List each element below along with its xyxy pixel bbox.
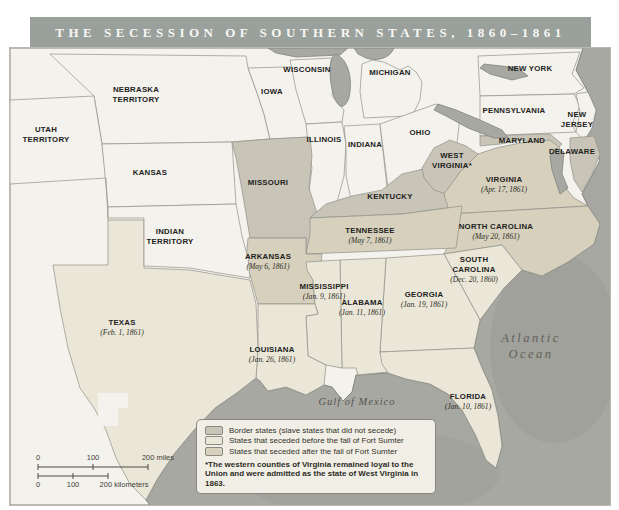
state-label-michigan: MICHIGAN bbox=[369, 68, 411, 77]
scale-km-label: 0 bbox=[36, 480, 40, 489]
state-label-south-carolina: SOUTH bbox=[460, 255, 489, 264]
state-label-nebraska-territory: NEBRASKA bbox=[113, 85, 159, 94]
legend-item-1: States that seceded before the fall of F… bbox=[205, 436, 427, 447]
legend-label-0: Border states (slave states that did not… bbox=[229, 426, 396, 435]
scale-miles-label: 100 bbox=[87, 453, 100, 462]
state-label-utah-territory: UTAH bbox=[35, 125, 57, 134]
water-label-atlantic-ocean: Ocean bbox=[508, 347, 553, 361]
state-date-louisiana: (Jan. 26, 1861) bbox=[249, 355, 296, 364]
state-label-missouri: MISSOURI bbox=[248, 178, 289, 187]
state-label-indiana: INDIANA bbox=[348, 140, 382, 149]
legend-footnote: *The western counties of Virginia remain… bbox=[205, 460, 427, 489]
state-label-new-york: NEW YORK bbox=[508, 64, 553, 73]
state-label-pennsylvania: PENNSYLVANIA bbox=[483, 106, 546, 115]
state-date-florida: (Jan. 10, 1861) bbox=[445, 402, 492, 411]
state-label-indian-territory: TERRITORY bbox=[147, 237, 194, 246]
legend-label-2: States that seceded after the fall of Fo… bbox=[229, 447, 397, 456]
legend-swatch-2 bbox=[205, 447, 223, 456]
state-label-west-virginia: VIRGINIA* bbox=[432, 161, 473, 170]
state-label-louisiana: LOUISIANA bbox=[249, 345, 294, 354]
scale-km-label: 100 bbox=[67, 480, 80, 489]
legend-swatch-0 bbox=[205, 426, 223, 435]
state-date-alabama: (Jan. 11, 1861) bbox=[339, 308, 385, 317]
scale-miles-label: 0 bbox=[36, 453, 40, 462]
state-label-alabama: ALABAMA bbox=[341, 298, 382, 307]
water-label-gulf-of-mexico: Gulf of Mexico bbox=[319, 396, 396, 407]
page: THE SECESSION OF SOUTHERN STATES, 1860–1… bbox=[0, 0, 619, 510]
state-label-north-carolina: NORTH CAROLINA bbox=[459, 222, 534, 231]
state-label-mississippi: MISSISSIPPI bbox=[299, 282, 348, 291]
state-date-tennessee: (May 7, 1861) bbox=[348, 236, 392, 245]
state-label-utah-territory: TERRITORY bbox=[23, 135, 70, 144]
state-date-arkansas: (May 6, 1861) bbox=[246, 262, 290, 271]
legend: Border states (slave states that did not… bbox=[196, 419, 436, 494]
state-label-indian-territory: INDIAN bbox=[156, 227, 184, 236]
scale-km-label: 200 kilometers bbox=[100, 480, 149, 489]
state-label-kentucky: KENTUCKY bbox=[367, 192, 413, 201]
state-label-arkansas: ARKANSAS bbox=[245, 252, 291, 261]
state-date-georgia: (Jan. 19, 1861) bbox=[401, 300, 448, 309]
water-label-atlantic-ocean: Atlantic bbox=[500, 331, 561, 345]
state-label-georgia: GEORGIA bbox=[405, 290, 444, 299]
state-label-virginia: VIRGINIA bbox=[486, 175, 523, 184]
state-label-texas: TEXAS bbox=[108, 318, 135, 327]
state-label-iowa: IOWA bbox=[261, 87, 283, 96]
legend-swatch-1 bbox=[205, 436, 223, 445]
state-label-wisconsin: WISCONSIN bbox=[283, 65, 330, 74]
state-label-illinois: ILLINOIS bbox=[307, 135, 342, 144]
state-date-south-carolina: (Dec. 20, 1860) bbox=[450, 275, 498, 284]
state-label-new-jersey: NEW bbox=[568, 110, 587, 119]
state-label-nebraska-territory: TERRITORY bbox=[113, 95, 160, 104]
state-label-tennessee: TENNESSEE bbox=[345, 226, 394, 235]
legend-item-2: States that seceded after the fall of Fo… bbox=[205, 446, 427, 457]
state-date-virginia: (Apr. 17, 1861) bbox=[481, 185, 527, 194]
state-date-north-carolina: (May 20, 1861) bbox=[472, 232, 519, 241]
state-date-texas: (Feb. 1, 1861) bbox=[100, 328, 144, 337]
state-label-south-carolina: CAROLINA bbox=[452, 265, 495, 274]
map-title: THE SECESSION OF SOUTHERN STATES, 1860–1… bbox=[30, 17, 591, 48]
legend-rows: Border states (slave states that did not… bbox=[205, 425, 427, 457]
state-label-florida: FLORIDA bbox=[450, 392, 487, 401]
legend-label-1: States that seceded before the fall of F… bbox=[229, 436, 404, 445]
legend-item-0: Border states (slave states that did not… bbox=[205, 425, 427, 436]
state-label-new-jersey: JERSEY bbox=[561, 120, 594, 129]
scale-miles-label: 200 miles bbox=[142, 453, 174, 462]
state-label-kansas: KANSAS bbox=[133, 168, 167, 177]
state-date-mississippi: (Jan. 9, 1861) bbox=[303, 292, 346, 301]
state-label-delaware: DELAWARE bbox=[549, 147, 595, 156]
state-kansas bbox=[102, 142, 236, 207]
state-label-maryland: MARYLAND bbox=[499, 136, 545, 145]
state-label-west-virginia: WEST bbox=[440, 151, 464, 160]
state-label-ohio: OHIO bbox=[410, 128, 431, 137]
